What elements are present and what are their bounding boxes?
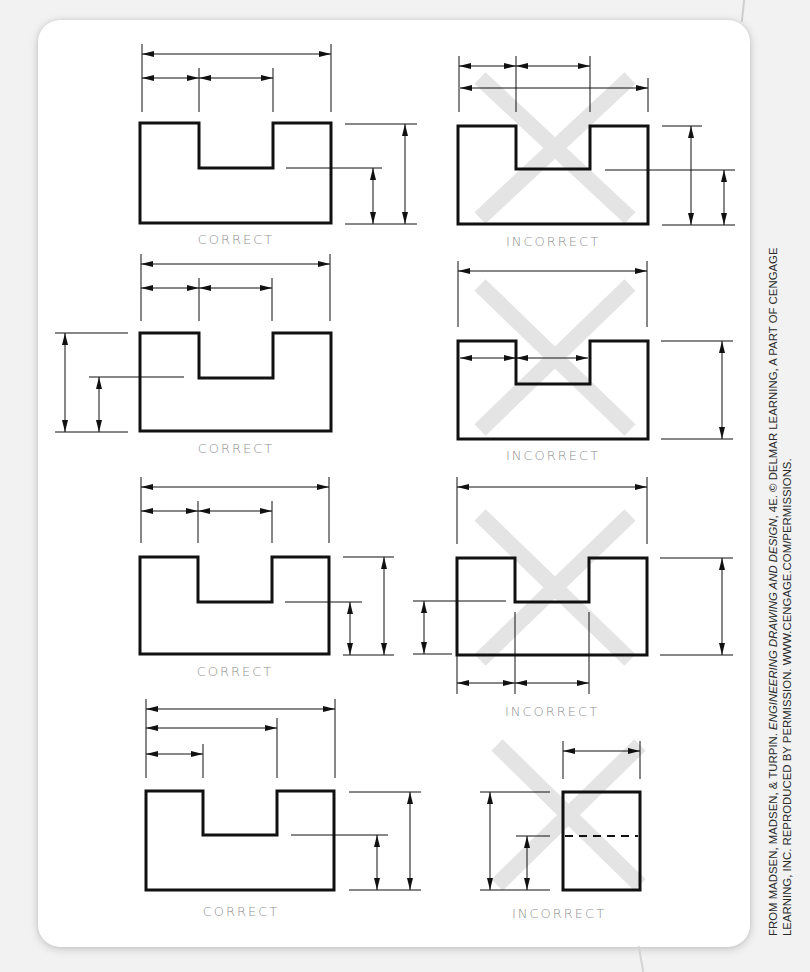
incorrect-cross-marks	[480, 78, 640, 885]
object-outline	[140, 333, 331, 431]
object-outline	[140, 123, 331, 223]
panel-label-incorrect: INCORRECT	[506, 448, 600, 463]
copyright-credit: FROM MADSEN, MADSEN, & TURPIN. ENGINEERI…	[766, 36, 794, 936]
panel-label-correct: CORRECT	[203, 904, 280, 919]
credit-book-title: ENGINEERING DRAWING AND DESIGN	[767, 519, 779, 730]
panel-label-incorrect: INCORRECT	[505, 704, 599, 719]
panel-5-correct	[140, 477, 394, 655]
panel-label-incorrect: INCORRECT	[506, 234, 600, 249]
panel-label-correct: CORRECT	[198, 441, 275, 456]
credit-line-1: FROM MADSEN, MADSEN, & TURPIN. ENGINEERI…	[766, 36, 780, 936]
credit-line-2: LEARNING, INC. REPRODUCED BY PERMISSION.…	[780, 36, 794, 936]
cross-mark-icon	[497, 745, 640, 885]
object-outline	[146, 791, 334, 890]
credit-suffix: , 4E. © DELMAR LEARNING, A PART OF CENGA…	[767, 247, 779, 518]
panel-3-correct	[55, 254, 331, 432]
cross-mark-icon	[480, 515, 630, 660]
panel-1-correct	[140, 44, 417, 224]
panel-6-incorrect	[413, 477, 733, 694]
cross-mark-icon	[480, 78, 630, 218]
panel-label-correct: CORRECT	[197, 664, 274, 679]
dimensioning-diagram	[0, 0, 810, 972]
object-outline	[140, 557, 329, 654]
panel-7-correct	[146, 699, 421, 890]
panel-label-correct: CORRECT	[198, 232, 275, 247]
panel-label-incorrect: INCORRECT	[512, 906, 606, 921]
credit-prefix: FROM MADSEN, MADSEN, & TURPIN.	[767, 730, 779, 936]
